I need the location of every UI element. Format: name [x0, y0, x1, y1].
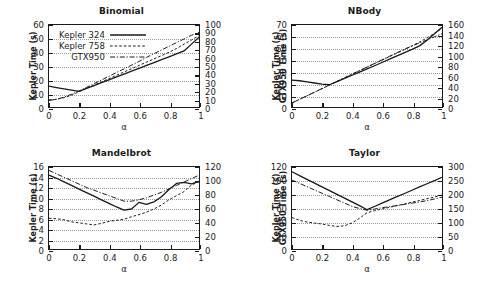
x-axis-tick	[200, 245, 201, 249]
legend: Kepler 324Kepler 758GTX950	[59, 29, 146, 62]
y-axis-tick-label-right: 250	[448, 176, 464, 186]
legend-item: Kepler 324	[59, 29, 146, 40]
y-axis-tick-label-left: 16	[33, 162, 44, 172]
legend-swatch-solid	[110, 31, 146, 39]
plot-area: 0102030405060010203040506070809010000.20…	[48, 24, 200, 108]
series-canvas	[292, 25, 442, 107]
x-axis-tick-label: 0.4	[346, 111, 360, 121]
x-axis-tick-label: 0	[46, 111, 51, 121]
x-axis-tick-label: 0	[289, 111, 294, 121]
x-axis-tick-label: 1	[198, 111, 203, 121]
y-axis-tick-label-left: 0	[39, 104, 44, 114]
y-axis-tick-label-right: 100	[448, 218, 464, 228]
y-axis-tick-label-right: 150	[448, 204, 464, 214]
series-line-gtx950	[292, 180, 442, 210]
series-line-kepler-324	[292, 172, 442, 210]
y-axis-tick-label-right: 140	[448, 31, 464, 41]
y-axis-tick-left	[292, 251, 296, 252]
y-axis-tick-left	[292, 109, 296, 110]
x-axis-tick-label: 1	[198, 253, 203, 263]
x-axis-tick-label: 0.6	[133, 111, 147, 121]
legend-item: Kepler 758	[59, 40, 146, 51]
x-axis-tick-label: 0	[46, 253, 51, 263]
y-axis-tick-left	[49, 109, 53, 110]
y-axis-tick-label-right: 100	[205, 176, 221, 186]
panel-title: Mandelbrot	[0, 148, 243, 158]
y-axis-tick-label-right: 60	[205, 204, 216, 214]
x-axis-tick-label: 0.2	[316, 111, 330, 121]
x-axis-label: α	[292, 122, 442, 132]
y-axis-tick-label-left: 0	[282, 104, 287, 114]
legend-swatch-dashdot	[110, 53, 146, 61]
panel-title: Taylor	[243, 148, 486, 158]
series-canvas	[49, 167, 199, 249]
y-axis-tick-label-left: 0	[282, 246, 287, 256]
y-axis-tick-label-left: 60	[33, 20, 44, 30]
panel-binomial: Binomial01020304050600102030405060708090…	[0, 0, 243, 142]
y-axis-tick-left	[49, 251, 53, 252]
y-axis-tick-label-right: 120	[448, 41, 464, 51]
y-axis-tick-label-right: 50	[448, 232, 459, 242]
y-axis-label-left: Kepler Time (s)	[272, 32, 281, 101]
x-axis-label: α	[49, 264, 199, 274]
series-line-kepler-758	[49, 182, 199, 225]
x-axis-tick	[443, 103, 444, 107]
y-axis-tick-right	[195, 109, 199, 110]
x-axis-tick-label: 0.8	[407, 111, 421, 121]
panel-mandelbrot: Mandelbrot024681012141602040608010012000…	[0, 142, 243, 284]
x-axis-tick-label: 0.4	[103, 111, 117, 121]
legend-label: Kepler 758	[59, 41, 105, 51]
y-axis-tick-label-left: 8	[39, 204, 44, 214]
y-axis-tick-right	[195, 251, 199, 252]
y-axis-tick-label-left: 70	[276, 20, 287, 30]
x-axis-tick-label: 0.8	[164, 253, 178, 263]
y-axis-tick-label-right: 160	[448, 20, 464, 30]
legend-label: GTX950	[71, 52, 105, 62]
x-axis-label: α	[292, 264, 442, 274]
y-axis-tick-label-right: 300	[448, 162, 464, 172]
legend-label: Kepler 324	[59, 30, 105, 40]
y-axis-tick-label-right: 100	[205, 20, 221, 30]
y-axis-tick-label-right: 40	[448, 83, 459, 93]
series-line-kepler-758	[292, 29, 442, 103]
plot-area: 024681012141602040608010012000.20.40.60.…	[48, 166, 200, 250]
x-axis-tick-label: 0.8	[407, 253, 421, 263]
y-axis-tick-label-left: 0	[39, 246, 44, 256]
x-axis-tick-label: 1	[441, 253, 446, 263]
series-line-kepler-324	[49, 175, 199, 210]
x-axis-tick-label: 0.4	[103, 253, 117, 263]
x-axis-tick-label: 0.2	[73, 253, 87, 263]
x-axis-tick-label: 0.2	[73, 111, 87, 121]
y-axis-tick-right	[438, 251, 442, 252]
x-axis-tick-label: 0.6	[133, 253, 147, 263]
y-axis-tick-label-right: 20	[448, 94, 459, 104]
y-axis-tick-label-left: 120	[271, 162, 287, 172]
x-axis-tick-label: 0.2	[316, 253, 330, 263]
series-canvas	[292, 167, 442, 249]
x-axis-tick	[200, 103, 201, 107]
y-axis-tick-label-right: 100	[448, 52, 464, 62]
y-axis-tick-label-right: 120	[205, 162, 221, 172]
series-line-kepler-758	[292, 195, 442, 226]
panel-title: Binomial	[0, 6, 243, 16]
y-axis-tick-label-right: 0	[448, 246, 453, 256]
plot-area: 02040608010012005010015020025030000.20.4…	[291, 166, 443, 250]
y-axis-label-left: Kepler Time (s)	[29, 32, 38, 101]
x-axis-tick-label: 0.8	[164, 111, 178, 121]
y-axis-label-left: Kepler Time (s)	[29, 174, 38, 243]
legend-item: GTX950	[59, 51, 146, 62]
plot-area: 01020304050607002040608010012014016000.2…	[291, 24, 443, 108]
x-axis-tick	[443, 245, 444, 249]
y-axis-tick-label-right: 20	[205, 232, 216, 242]
x-axis-tick-label: 0.4	[346, 253, 360, 263]
x-axis-tick-label: 0	[289, 253, 294, 263]
y-axis-tick-right	[438, 109, 442, 110]
y-axis-tick-label-left: 4	[39, 225, 44, 235]
y-axis-tick-label-right: 80	[448, 62, 459, 72]
y-axis-tick-label-right: 80	[205, 190, 216, 200]
panel-title: NBody	[243, 6, 486, 16]
y-axis-tick-label-left: 2	[39, 236, 44, 246]
panel-taylor: Taylor0204060801001200501001502002503000…	[243, 142, 486, 284]
y-axis-tick-label-right: 200	[448, 190, 464, 200]
series-line-kepler-324	[292, 27, 442, 84]
